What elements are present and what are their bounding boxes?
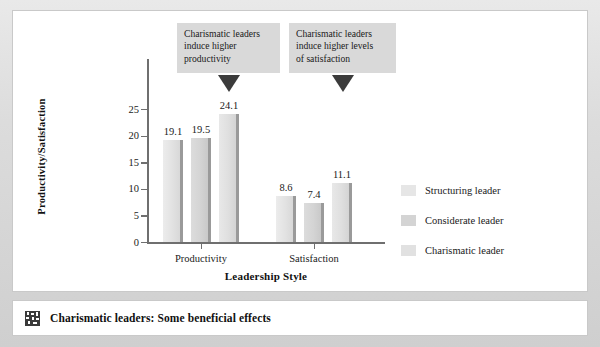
- book-thumbnail-icon: [25, 311, 40, 326]
- bar-edge: [208, 138, 211, 242]
- callout-satisfaction-arrow-icon: [332, 75, 354, 92]
- bar-face: [332, 183, 349, 242]
- bar-satisfaction-structuring[interactable]: [276, 196, 296, 242]
- page-root: 0 5 10 15 20 25 Productivity/Satisfactio…: [0, 0, 600, 347]
- legend-swatch-structuring: [401, 185, 416, 196]
- callout-productivity-arrow-icon: [218, 75, 240, 92]
- legend-item-structuring[interactable]: Structuring leader: [401, 183, 504, 197]
- x-category-label-satisfaction: Satisfaction: [254, 253, 374, 264]
- bar-value-satisfaction-considerate: 7.4: [294, 189, 334, 200]
- y-tick-5: [141, 215, 147, 216]
- caption-title: Charismatic leaders: Some beneficial eff…: [50, 312, 271, 324]
- bar-satisfaction-charismatic[interactable]: [332, 183, 352, 242]
- y-tick-0: [141, 242, 147, 243]
- bar-edge: [349, 183, 352, 242]
- y-tick-25: [141, 109, 147, 110]
- chart-panel: 0 5 10 15 20 25 Productivity/Satisfactio…: [12, 10, 588, 292]
- callout-satisfaction-line1: Charismatic leaders: [296, 28, 389, 40]
- bar-edge: [180, 140, 183, 242]
- bar-value-satisfaction-charismatic: 11.1: [322, 169, 362, 180]
- caption-panel: Charismatic leaders: Some beneficial eff…: [12, 300, 588, 336]
- legend-item-charismatic[interactable]: Charismatic leader: [401, 243, 504, 257]
- y-axis-title: Productivity/Satisfaction: [36, 87, 47, 227]
- y-axis-line: [147, 59, 149, 242]
- bar-face: [304, 203, 321, 242]
- bar-value-productivity-considerate: 19.5: [181, 124, 221, 135]
- y-tick-label-25: 25: [117, 104, 139, 115]
- callout-satisfaction-line2: induce higher levels: [296, 40, 389, 52]
- bar-face: [163, 140, 180, 242]
- bar-productivity-considerate[interactable]: [191, 138, 211, 242]
- legend-label-charismatic: Charismatic leader: [425, 245, 504, 256]
- callout-productivity-line1: Charismatic leaders: [184, 28, 273, 40]
- legend-item-considerate[interactable]: Considerate leader: [401, 213, 504, 227]
- bar-edge: [293, 196, 296, 242]
- x-category-label-productivity: Productivity: [141, 253, 261, 264]
- bar-edge: [321, 203, 324, 242]
- y-tick-20: [141, 136, 147, 137]
- y-tick-label-10: 10: [117, 183, 139, 194]
- y-tick-label-5: 5: [117, 210, 139, 221]
- callout-satisfaction: Charismatic leaders induce higher levels…: [289, 23, 396, 73]
- x-tick-satisfaction: [314, 243, 315, 249]
- y-tick-label-20: 20: [117, 130, 139, 141]
- x-tick-productivity: [201, 243, 202, 249]
- legend: Structuring leader Considerate leader Ch…: [401, 183, 504, 273]
- y-tick-10: [141, 189, 147, 190]
- callout-productivity-line3: productivity: [184, 53, 273, 65]
- callout-satisfaction-line3: of satisfaction: [296, 53, 389, 65]
- legend-swatch-charismatic: [401, 245, 416, 256]
- bar-edge: [236, 114, 239, 242]
- bar-face: [276, 196, 293, 242]
- callout-productivity-line2: induce higher: [184, 40, 273, 52]
- y-tick-15: [141, 162, 147, 163]
- bar-productivity-charismatic[interactable]: [219, 114, 239, 242]
- bar-productivity-structuring[interactable]: [163, 140, 183, 242]
- y-tick-label-15: 15: [117, 157, 139, 168]
- bar-face: [191, 138, 208, 242]
- x-axis-title: Leadership Style: [147, 270, 385, 282]
- plot-area: 0 5 10 15 20 25 Productivity/Satisfactio…: [13, 11, 588, 292]
- legend-label-considerate: Considerate leader: [425, 215, 503, 226]
- bar-satisfaction-considerate[interactable]: [304, 203, 324, 242]
- y-tick-label-0: 0: [117, 237, 139, 248]
- legend-label-structuring: Structuring leader: [425, 185, 501, 196]
- bar-value-productivity-charismatic: 24.1: [209, 100, 249, 111]
- x-axis-line: [147, 242, 385, 244]
- bar-face: [219, 114, 236, 242]
- legend-swatch-considerate: [401, 215, 416, 226]
- callout-productivity: Charismatic leaders induce higher produc…: [177, 23, 280, 73]
